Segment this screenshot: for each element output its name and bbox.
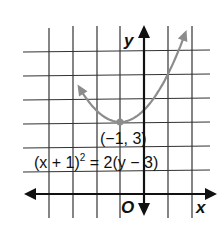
- vertex-label: (−1, 3): [100, 130, 147, 147]
- y-axis-label: y: [123, 31, 135, 50]
- x-axis-arrow-left-icon: [24, 188, 36, 200]
- equation-left: (x + 1): [34, 154, 80, 171]
- x-axis-arrow-right-icon: [205, 188, 217, 200]
- equation-label: (x + 1)2 = 2(y − 3): [34, 152, 158, 171]
- curve-arrow-right-icon: [178, 30, 187, 42]
- origin-label: O: [121, 198, 134, 217]
- x-axis-label: x: [195, 198, 207, 217]
- y-axis-arrow-down-icon: [138, 203, 150, 216]
- equation-right: = 2(y − 3): [85, 154, 158, 171]
- parabola-graph: y x O (−1, 3) (x + 1)2 = 2(y − 3): [0, 0, 221, 242]
- vertex-point: [117, 119, 124, 126]
- y-axis-arrow-up-icon: [138, 25, 150, 38]
